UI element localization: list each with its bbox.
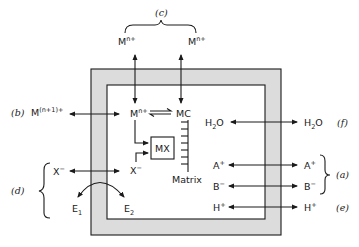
m-n1-plus: M(n+1)+ <box>31 106 63 118</box>
e1-label: E1 <box>72 203 82 217</box>
cell-membrane <box>91 69 281 235</box>
matrix-label: Matrix <box>172 174 202 185</box>
label-d: (d) <box>11 185 25 196</box>
b-outside: B− <box>304 180 316 192</box>
label-c: (c) <box>155 7 168 18</box>
mx-label: MX <box>155 143 170 154</box>
label-f: (f) <box>337 117 348 128</box>
label-e: (e) <box>336 202 349 213</box>
transport-diagram: (c) Mn+ Mn+ (b) M(n+1)+ Mn+ MC Matrix M <box>0 0 359 247</box>
h2o-outside: H2O <box>304 117 323 131</box>
mc-label: MC <box>176 108 191 119</box>
h-outside: H+ <box>304 201 317 213</box>
a-outside: A+ <box>304 159 316 171</box>
m-n-top-right: Mn+ <box>188 35 206 47</box>
label-b: (b) <box>11 107 25 118</box>
label-a: (a) <box>336 169 349 180</box>
m-n-top-left: Mn+ <box>118 35 136 47</box>
x-outside: X− <box>53 165 65 177</box>
